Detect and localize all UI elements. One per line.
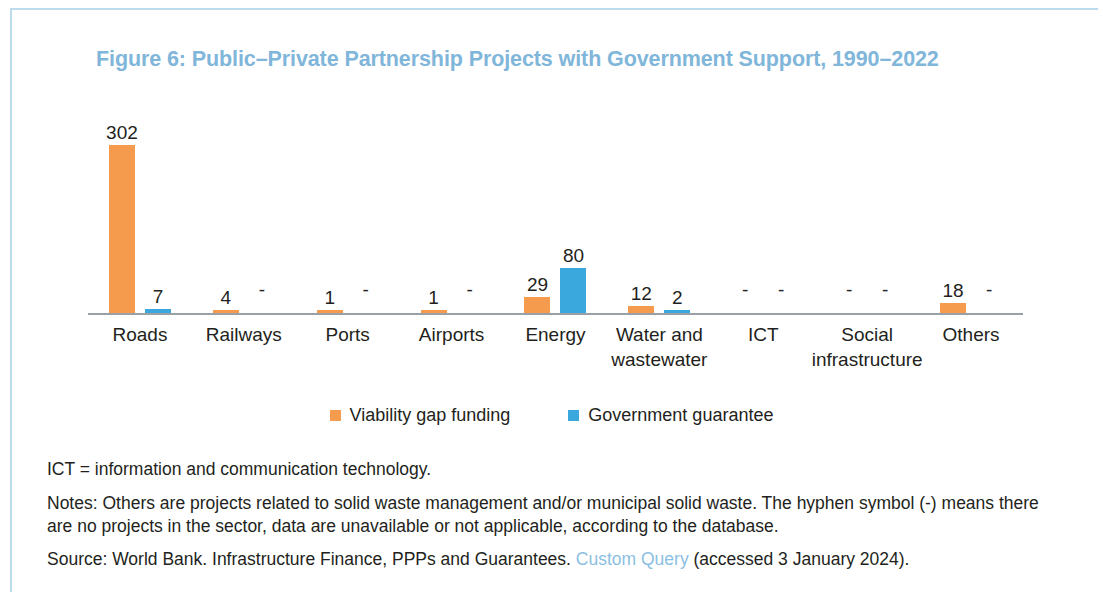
bar-group: 1-	[400, 100, 504, 313]
bar-value-label: -	[363, 280, 369, 299]
bar-value-label: 4	[221, 288, 232, 307]
bar-value-label: -	[259, 280, 265, 299]
bar-value-label: 1	[428, 288, 439, 307]
bar-slot: -	[249, 100, 275, 313]
source-note: Source: World Bank. Infrastructure Finan…	[47, 548, 1057, 571]
bar-value-label: 7	[153, 287, 164, 306]
bar-slot: -	[353, 100, 379, 313]
chart-legend: Viability gap fundingGovernment guarante…	[0, 405, 1103, 426]
bar-value-label: -	[846, 280, 852, 299]
bar-value-label: 29	[527, 275, 548, 294]
chart-plot-area: 30274-1-1-2980122----18-	[88, 100, 1023, 315]
bar-slot: 2	[664, 100, 690, 313]
bar-slot: 29	[524, 100, 550, 313]
bar-slot: 302	[109, 100, 135, 313]
source-prefix: Source: World Bank. Infrastructure Finan…	[47, 549, 576, 569]
legend-item[interactable]: Viability gap funding	[330, 405, 511, 426]
bar-slot: -	[457, 100, 483, 313]
bar-group: 1-	[296, 100, 400, 313]
bar-slot: -	[872, 100, 898, 313]
bar-group: 2980	[504, 100, 608, 313]
bar-value-label: -	[742, 280, 748, 299]
bar[interactable]	[628, 306, 654, 313]
custom-query-link[interactable]: Custom Query	[576, 549, 689, 569]
bar-slot: -	[768, 100, 794, 313]
bar-slot: 1	[317, 100, 343, 313]
bar-slot: 1	[421, 100, 447, 313]
bar[interactable]	[213, 310, 239, 313]
legend-swatch-icon	[568, 410, 579, 421]
bar-value-label: 1	[324, 288, 335, 307]
bar-slot: 7	[145, 100, 171, 313]
legend-label: Viability gap funding	[350, 405, 511, 426]
bar-slot: -	[836, 100, 862, 313]
bar-group: 4-	[192, 100, 296, 313]
bar-group: 18-	[919, 100, 1023, 313]
bar[interactable]	[109, 145, 135, 313]
bar[interactable]	[317, 310, 343, 313]
bar[interactable]	[145, 309, 171, 313]
abbreviation-note: ICT = information and communication tech…	[47, 458, 1057, 481]
bar-slot: 12	[628, 100, 654, 313]
general-note: Notes: Others are projects related to so…	[47, 492, 1057, 538]
figure-notes: ICT = information and communication tech…	[47, 458, 1057, 571]
x-axis-tick-label: Others	[907, 322, 1035, 347]
bar-slot: -	[976, 100, 1002, 313]
page-title: Figure 6: Public–Private Partnership Pro…	[96, 47, 939, 72]
bar-slot: -	[732, 100, 758, 313]
figure-container: Figure 6: Public–Private Partnership Pro…	[0, 0, 1103, 600]
x-axis-line	[88, 313, 1023, 315]
bar-group: 122	[607, 100, 711, 313]
bar-slot: 4	[213, 100, 239, 313]
bar[interactable]	[664, 310, 690, 313]
bar-value-label: 18	[942, 281, 963, 300]
bar-value-label: -	[986, 280, 992, 299]
bar-group: --	[711, 100, 815, 313]
x-axis-tick-labels: RoadsRailwaysPortsAirportsEnergyWater an…	[88, 322, 1023, 382]
bar-slot: 18	[940, 100, 966, 313]
bar-value-label: 302	[106, 123, 138, 142]
bar-group: 3027	[88, 100, 192, 313]
legend-item[interactable]: Government guarantee	[568, 405, 773, 426]
bar-value-label: -	[778, 280, 784, 299]
source-suffix: (accessed 3 January 2024).	[689, 549, 910, 569]
bar-value-label: 2	[672, 288, 683, 307]
bar-value-label: 12	[631, 284, 652, 303]
bar-value-label: -	[466, 280, 472, 299]
bar[interactable]	[524, 297, 550, 313]
bar[interactable]	[421, 310, 447, 313]
bar-value-label: 80	[563, 246, 584, 265]
bar[interactable]	[560, 268, 586, 313]
legend-label: Government guarantee	[588, 405, 773, 426]
bar-group: --	[815, 100, 919, 313]
bar-slot: 80	[560, 100, 586, 313]
bar-value-label: -	[882, 280, 888, 299]
legend-swatch-icon	[330, 410, 341, 421]
bar[interactable]	[940, 303, 966, 313]
